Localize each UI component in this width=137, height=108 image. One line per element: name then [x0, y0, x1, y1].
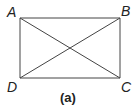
vertex-label-c: C: [121, 79, 132, 95]
vertex-label-b: B: [121, 3, 130, 19]
figure-caption: (a): [60, 90, 76, 105]
rectangle-diagram: A B D C (a): [0, 0, 137, 108]
rectangle-edges: [20, 18, 120, 78]
vertex-label-d: D: [7, 79, 17, 95]
vertex-label-a: A: [6, 4, 16, 20]
